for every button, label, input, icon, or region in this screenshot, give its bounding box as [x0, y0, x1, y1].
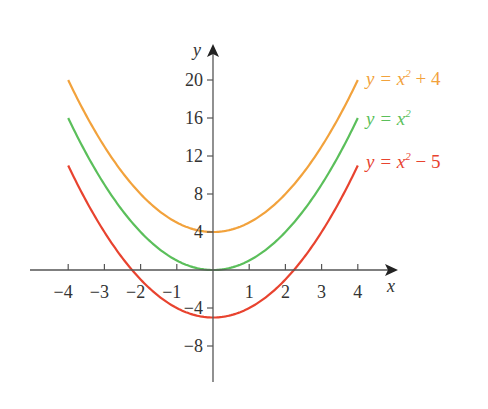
x-tick-label: −1: [162, 282, 181, 302]
legend-item-0: y = x2 + 4: [364, 67, 441, 89]
x-tick-label: −2: [126, 282, 145, 302]
chart-canvas: −4−3−2−11234 −8−448121620 x y y = x2 + 4…: [0, 0, 488, 409]
y-axis-label: y: [191, 40, 201, 60]
x-tick-label: 4: [353, 282, 362, 302]
y-tick-label: 20: [185, 70, 203, 90]
y-tick-label: 4: [194, 222, 203, 242]
y-tick-label: −4: [184, 298, 203, 318]
legend-item-1: y = x2: [364, 107, 411, 129]
x-tick-label: 2: [281, 282, 290, 302]
x-tick-label: 1: [245, 282, 254, 302]
y-tick-label: 16: [185, 108, 203, 128]
x-tick-label: −4: [54, 282, 73, 302]
y-tick-label: −8: [184, 336, 203, 356]
legend: y = x2 + 4y = x2y = x2 − 5: [364, 67, 441, 172]
y-tick-label: 12: [185, 146, 203, 166]
x-tick-label: 3: [317, 282, 326, 302]
x-tick-label: −3: [90, 282, 109, 302]
x-axis-label: x: [386, 276, 395, 296]
y-tick-label: 8: [194, 184, 203, 204]
y-ticks: −8−448121620: [184, 70, 213, 356]
axes: [30, 44, 398, 382]
legend-item-2: y = x2 − 5: [364, 150, 440, 172]
